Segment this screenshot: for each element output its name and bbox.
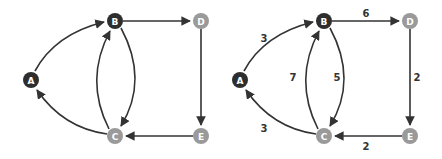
node-d: D (402, 13, 418, 29)
node-a: A (232, 72, 248, 88)
svg-text:A: A (28, 76, 35, 86)
node-e: E (193, 128, 209, 144)
weight-a-b: 3 (261, 33, 268, 44)
edge-a-b (35, 22, 104, 71)
node-d: D (193, 13, 209, 29)
node-e: E (402, 128, 418, 144)
node-c: C (107, 128, 123, 144)
node-c: C (316, 128, 332, 144)
weight-c-a: 3 (261, 123, 268, 134)
svg-text:B: B (112, 17, 119, 27)
svg-text:D: D (406, 17, 413, 27)
edge-c-a (246, 90, 316, 134)
weight-c-b: 7 (290, 72, 297, 83)
edge-c-a (37, 90, 107, 134)
svg-text:E: E (407, 132, 413, 142)
edge-c-b (97, 31, 110, 129)
node-a: A (23, 72, 39, 88)
weight-b-d: 6 (363, 8, 370, 19)
unweighted-graph: A B D C E (23, 13, 209, 144)
svg-text:C: C (112, 132, 119, 142)
svg-text:E: E (198, 132, 204, 142)
svg-text:C: C (321, 132, 328, 142)
node-b: B (107, 13, 123, 29)
weight-b-c: 5 (334, 72, 341, 83)
edge-c-b (306, 31, 319, 129)
edge-a-b (244, 22, 313, 71)
graph-canvas: A B D C E 3 6 2 2 3 5 7 (0, 0, 442, 159)
svg-text:A: A (237, 76, 244, 86)
weight-e-c: 2 (363, 141, 370, 152)
weighted-graph: 3 6 2 2 3 5 7 A B D C E (232, 8, 421, 152)
svg-text:B: B (321, 17, 328, 27)
node-b: B (316, 13, 332, 29)
weight-d-e: 2 (414, 72, 421, 83)
edge-b-c (121, 28, 135, 126)
svg-text:D: D (197, 17, 204, 27)
